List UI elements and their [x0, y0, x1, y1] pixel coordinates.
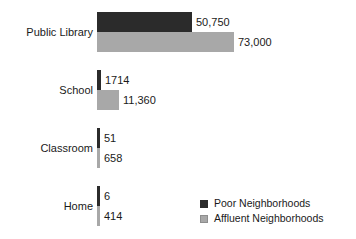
chart-group-public-library: Public Library 50,750 73,000	[0, 12, 356, 52]
category-label-classroom: Classroom	[0, 143, 93, 154]
legend-item-affluent: Affluent Neighborhoods	[200, 211, 324, 226]
category-label-school: School	[0, 85, 93, 96]
bar-value-classroom-poor: 51	[100, 133, 116, 144]
bar-public-library-affluent	[97, 32, 234, 52]
category-label-home: Home	[0, 201, 93, 212]
bar-value-classroom-affluent: 658	[100, 153, 122, 164]
legend-swatch-poor-icon	[200, 200, 208, 208]
bar-value-school-affluent: 11,360	[119, 95, 156, 106]
bar-value-public-library-affluent: 73,000	[234, 37, 272, 48]
legend-label-affluent: Affluent Neighborhoods	[214, 211, 324, 226]
bar-value-public-library-poor: 50,750	[192, 17, 230, 28]
category-label-public-library: Public Library	[0, 27, 93, 38]
bar-value-school-poor: 1714	[101, 75, 129, 86]
legend-label-poor: Poor Neighborhoods	[214, 196, 310, 211]
bar-chart: Public Library 50,750 73,000 School 1714…	[0, 0, 356, 239]
legend-swatch-affluent-icon	[200, 215, 208, 223]
bar-value-home-affluent: 414	[100, 211, 122, 222]
chart-group-school: School 1714 11,360	[0, 70, 356, 110]
chart-legend: Poor Neighborhoods Affluent Neighborhood…	[200, 196, 324, 226]
bar-value-home-poor: 6	[100, 191, 110, 202]
chart-group-classroom: Classroom 51 658	[0, 128, 356, 168]
bar-school-affluent	[97, 90, 119, 110]
bar-public-library-poor	[97, 12, 192, 32]
legend-item-poor: Poor Neighborhoods	[200, 196, 324, 211]
